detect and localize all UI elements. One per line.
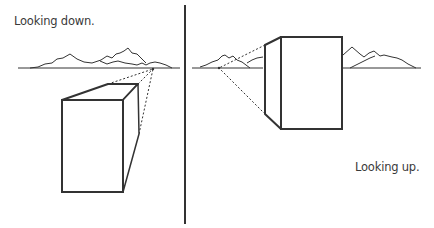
box-front-face: [62, 100, 123, 192]
perspective-guide: [139, 69, 153, 134]
caption-looking-down: Looking down.: [14, 14, 94, 28]
mountains-left-front: [100, 61, 172, 68]
left-panel-looking-down: [18, 48, 180, 192]
vanishing-point-left: [152, 68, 154, 70]
box-side-face: [265, 37, 281, 129]
vanishing-point-right: [218, 67, 220, 69]
mountains-left-back: [30, 48, 146, 68]
mountains-right-left-front: [247, 57, 263, 63]
mountains-right-right-front: [350, 56, 375, 68]
box-side-face: [123, 84, 139, 192]
mountains-right-right: [343, 47, 416, 68]
perspective-guide: [219, 45, 265, 68]
perspective-guide: [108, 69, 153, 84]
perspective-diagram: [0, 0, 434, 228]
mountains-right-left: [200, 55, 250, 68]
caption-looking-up: Looking up.: [355, 160, 419, 174]
box-front-face: [281, 37, 342, 129]
right-panel-looking-up: [192, 37, 421, 129]
perspective-guide: [219, 68, 265, 114]
